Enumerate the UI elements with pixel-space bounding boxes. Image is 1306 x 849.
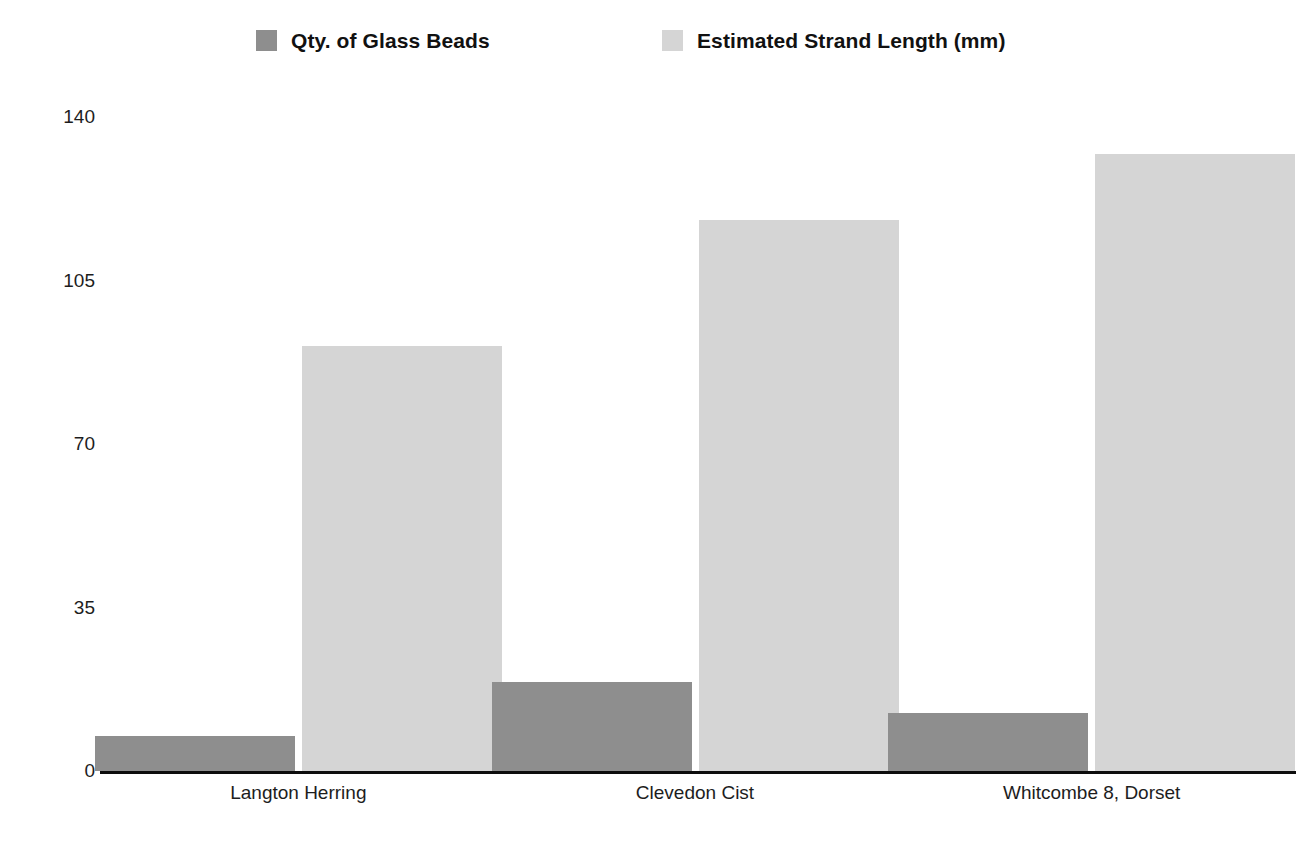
y-axis-tick-label: 0	[15, 761, 95, 780]
bar-qty-of-glass-beads	[492, 682, 692, 771]
bar-estimated-strand-length	[1095, 154, 1295, 771]
bar-qty-of-glass-beads	[888, 713, 1088, 771]
y-axis-tick-label: 140	[15, 107, 95, 126]
y-axis-tick-label: 35	[15, 598, 95, 617]
bar-qty-of-glass-beads	[95, 736, 295, 771]
x-axis-baseline	[100, 771, 1296, 774]
bar-estimated-strand-length	[302, 346, 502, 771]
x-axis-category-label: Whitcombe 8, Dorset	[828, 782, 1306, 804]
bar-chart-plot-area: 03570105140 Langton HerringClevedon Cist…	[0, 0, 1306, 849]
y-axis-tick-label: 105	[15, 271, 95, 290]
y-axis-tick-label: 70	[15, 434, 95, 453]
bar-estimated-strand-length	[699, 220, 899, 771]
